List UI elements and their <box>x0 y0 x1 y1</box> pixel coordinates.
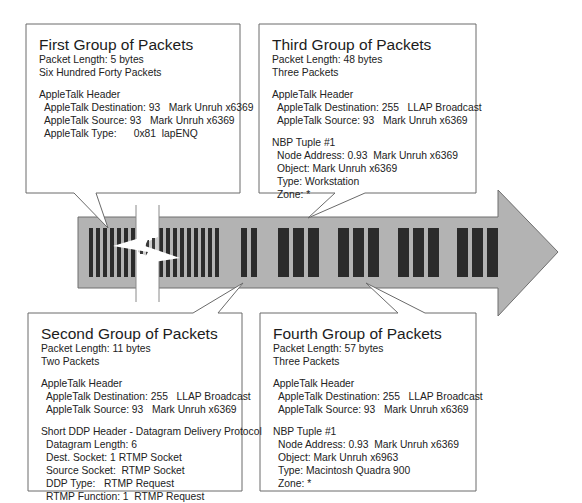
section-heading: AppleTalk Header <box>273 377 476 390</box>
field-line: Datagram Length: 6 <box>41 438 242 451</box>
fourth-group-packets <box>338 228 379 277</box>
callout-title: Second Group of Packets <box>41 325 242 342</box>
packet-length: Packet Length: 57 bytes <box>273 342 476 355</box>
packet-count: Six Hundred Forty Packets <box>39 66 240 79</box>
fourth-group-callout: Fourth Group of Packets Packet Length: 5… <box>260 313 476 491</box>
callout-title: Fourth Group of Packets <box>273 325 476 342</box>
section-heading: NBP Tuple #1 <box>272 136 476 149</box>
callout-title: Third Group of Packets <box>272 36 476 53</box>
callout-title: First Group of Packets <box>39 36 240 53</box>
field-line: AppleTalk Destination: 255 LLAP Broadcas… <box>272 101 476 114</box>
field-line: Type: Macintosh Quadra 900 <box>273 464 476 477</box>
field-line: Dest. Socket: 1 RTMP Socket <box>41 451 242 464</box>
section-heading: AppleTalk Header <box>272 88 476 101</box>
field-line: DDP Type: RTMP Request <box>41 477 242 490</box>
section-heading: Short DDP Header - Datagram Delivery Pro… <box>41 425 242 438</box>
field-line: Source Socket: RTMP Socket <box>41 464 242 477</box>
field-line: AppleTalk Destination: 93 Mark Unruh x63… <box>39 101 240 114</box>
field-line: AppleTalk Type: 0x81 lapENQ <box>39 127 240 140</box>
packet-count: Three Packets <box>273 355 476 368</box>
field-line: Object: Mark Unruh x6963 <box>273 451 476 464</box>
field-line: Node Address: 0.93 Mark Unruh x6369 <box>273 438 476 451</box>
second-group-callout: Second Group of Packets Packet Length: 1… <box>28 313 242 491</box>
packet-count: Two Packets <box>41 355 242 368</box>
section-heading: AppleTalk Header <box>39 88 240 101</box>
field-line: Node Address: 0.93 Mark Unruh x6369 <box>272 149 476 162</box>
field-line: Object: Mark Unruh x6369 <box>272 162 476 175</box>
field-line: AppleTalk Source: 93 Mark Unruh x6369 <box>39 114 240 127</box>
field-line: AppleTalk Destination: 255 LLAP Broadcas… <box>273 390 476 403</box>
field-line: Zone: * <box>273 477 476 490</box>
packet-count: Three Packets <box>272 66 476 79</box>
field-line: AppleTalk Source: 93 Mark Unruh x6369 <box>272 114 476 127</box>
third-group-callout: Third Group of Packets Packet Length: 48… <box>259 24 476 193</box>
field-line: Zone: * <box>272 188 476 201</box>
field-line: AppleTalk Source: 93 Mark Unruh x6369 <box>41 403 242 416</box>
third-group-packets <box>278 228 319 277</box>
field-line: AppleTalk Destination: 255 LLAP Broadcas… <box>41 390 242 403</box>
field-line: Type: Workstation <box>272 175 476 188</box>
packet-length: Packet Length: 48 bytes <box>272 53 476 66</box>
section-heading: AppleTalk Header <box>41 377 242 390</box>
field-line: AppleTalk Source: 93 Mark Unruh x6369 <box>273 403 476 416</box>
section-heading: NBP Tuple #1 <box>273 425 476 438</box>
packet-length: Packet Length: 11 bytes <box>41 342 242 355</box>
packet-length: Packet Length: 5 bytes <box>39 53 240 66</box>
field-line: RTMP Function: 1 RTMP Request <box>41 490 242 503</box>
first-group-callout: First Group of Packets Packet Length: 5 … <box>26 24 240 193</box>
